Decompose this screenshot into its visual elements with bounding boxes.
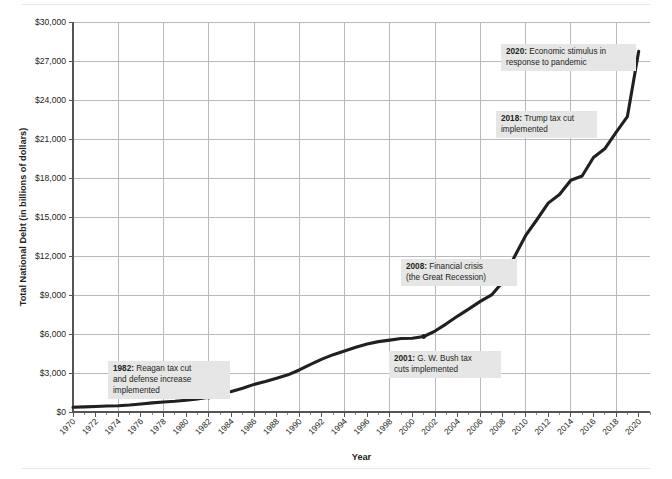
y-axis-tick-label: $12,000 [35,251,66,261]
x-axis-tick-label: 2006 [464,416,484,436]
x-axis-tick-label: 1978 [148,416,168,436]
annotation-text: G. W. Bush tax [417,354,472,363]
annotation-text: Reagan tax cut [136,364,192,373]
x-axis-tick-label: 2002 [419,416,439,436]
annotation-line: (the Great Recession) [406,273,486,282]
national-debt-line-chart: $0$3,000$6,000$9,000$12,000$15,000$18,00… [0,0,672,479]
x-axis-tick-label: 1982 [193,416,213,436]
x-axis-tick-label: 1994 [329,416,349,436]
annotations-group: 1982: Reagan tax cutand defense increase… [108,44,636,399]
chart-figure: $0$3,000$6,000$9,000$12,000$15,000$18,00… [0,0,672,479]
annotation-line: implemented [113,386,160,395]
annotation-line: 1982: Reagan tax cut [113,364,192,373]
annotation-line: 2018: Trump tax cut [501,114,575,123]
x-axis-tick-label: 1974 [102,416,122,436]
annotation-2001: 2001: G. W. Bush taxcuts implemented [389,351,501,378]
x-axis-tick-label: 1988 [261,416,281,436]
annotation-year: 2020: [506,47,529,56]
y-axis-tick-label: $3,000 [40,368,67,378]
x-axis-tick-label: 1972 [80,416,100,436]
x-axis-tick-label: 2016 [578,416,598,436]
annotation-text: Economic stimulus in [529,47,606,56]
annotation-year: 2008: [406,262,429,271]
y-axis-title: Total National Debt (in billions of doll… [18,128,28,306]
annotation-year: 2001: [394,354,417,363]
y-axis-tick-label: $0 [56,407,66,417]
x-axis-tick-label: 2014 [555,416,575,436]
x-axis-tick-label: 1984 [216,416,236,436]
y-axis-tick-label: $27,000 [35,56,66,66]
x-axis-tick-label: 1998 [374,416,394,436]
x-axis-labels-group: 1970197219741976197819801982198419861988… [57,416,643,436]
y-axis-labels-group: $0$3,000$6,000$9,000$12,000$15,000$18,00… [35,17,66,417]
annotation-1982: 1982: Reagan tax cutand defense increase… [108,361,230,399]
gridlines-group [73,22,650,412]
y-axis-ticks-group [69,22,73,412]
annotation-line: implemented [501,125,548,134]
x-axis-tick-label: 1986 [238,416,258,436]
x-axis-tick-label: 1992 [306,416,326,436]
y-axis-tick-label: $18,000 [35,173,66,183]
top-divider-rule [22,4,650,5]
x-axis-tick-label: 2018 [600,416,620,436]
x-axis-tick-label: 1990 [283,416,303,436]
annotation-line: 2008: Financial crisis [406,262,483,271]
y-axis-tick-label: $24,000 [35,95,66,105]
data-series-group [73,51,639,407]
x-axis-tick-label: 2010 [510,416,530,436]
x-axis-tick-label: 1996 [351,416,371,436]
annotation-line: 2001: G. W. Bush tax [394,354,472,363]
x-axis-tick-label: 2012 [532,416,552,436]
x-axis-tick-label: 2008 [487,416,507,436]
annotation-text: Trump tax cut [524,114,574,123]
x-axis-tick-label: 1970 [57,416,77,436]
x-axis-tick-label: 1980 [170,416,190,436]
y-axis-tick-label: $9,000 [40,290,67,300]
data-point-marker [421,334,426,339]
annotation-line: cuts implemented [394,365,459,374]
annotation-line: 2020: Economic stimulus in [506,47,607,56]
x-axis-tick-label: 1976 [125,416,145,436]
y-axis-tick-label: $21,000 [35,134,66,144]
y-axis-tick-label: $15,000 [35,212,66,222]
annotation-year: 1982: [113,364,136,373]
x-axis-title: Year [352,452,372,462]
y-axis-tick-label: $30,000 [35,17,66,27]
x-axis-ticks-group [73,412,650,417]
data-line-series [73,51,639,407]
bottom-divider-rule [22,468,650,469]
annotation-2020: 2020: Economic stimulus inresponse to pa… [501,44,636,71]
annotation-year: 2018: [501,114,524,123]
annotation-text: Financial crisis [429,262,483,271]
annotation-line: response to pandemic [506,58,587,67]
annotation-2008: 2008: Financial crisis(the Great Recessi… [401,259,517,286]
annotation-2018: 2018: Trump tax cutimplemented [496,111,597,138]
annotation-line: and defense increase [113,375,192,384]
y-axis-tick-label: $6,000 [40,329,67,339]
x-axis-tick-label: 2020 [623,416,643,436]
x-axis-tick-label: 2004 [442,416,462,436]
x-axis-tick-label: 2000 [397,416,417,436]
